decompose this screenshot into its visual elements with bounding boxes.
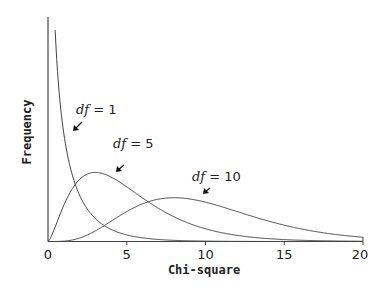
arrow-icon: [116, 165, 124, 172]
chi-square-chart: 0 5 10 15 20 Chi-square Frequency df = 1…: [0, 0, 387, 291]
x-tick-label-0: 0: [44, 247, 52, 262]
annotation-df-1: df = 1: [76, 102, 117, 117]
x-tick-label-15: 15: [276, 247, 293, 262]
x-tick-label-20: 20: [352, 247, 369, 262]
x-tick-label-5: 5: [123, 247, 131, 262]
annotation-df-5: df = 5: [113, 136, 154, 151]
annotation-df-10: df = 10: [192, 169, 241, 184]
curve-df-1: [55, 30, 363, 241]
x-axis-label: Chi-square: [168, 263, 240, 277]
curve-df-10: [48, 198, 363, 242]
y-axis-label: Frequency: [20, 99, 34, 164]
arrow-icon: [203, 188, 210, 194]
x-tick-label-10: 10: [197, 247, 214, 262]
arrow-icon: [73, 122, 82, 131]
